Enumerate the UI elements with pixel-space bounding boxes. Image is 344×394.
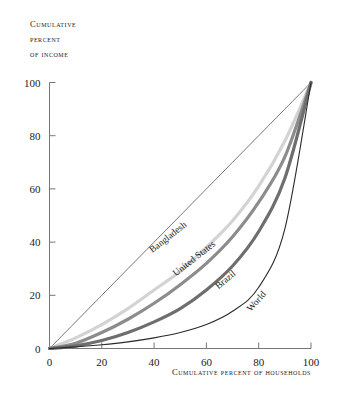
x-tick-label: 60 (201, 356, 213, 368)
x-axis-ticks (102, 343, 311, 349)
x-tick-label: 80 (253, 356, 265, 368)
y-axis-title-line-3: of income (30, 49, 68, 59)
chart-canvas: Cumulative percent of income 02040608010… (0, 0, 344, 394)
y-tick-label: 60 (30, 183, 42, 195)
x-tick-label: 20 (96, 356, 108, 368)
y-axis-title-line-1: Cumulative (30, 19, 76, 29)
y-tick-label: 40 (30, 236, 42, 248)
y-tick-label: 20 (30, 289, 42, 301)
x-tick-label: 0 (47, 356, 53, 368)
curve-label-world: World (245, 289, 268, 313)
lorenz-curves (50, 83, 312, 349)
curve-label-bangladesh: Bangladesh (147, 219, 188, 254)
y-tick-label: 80 (30, 130, 42, 142)
curve-labels: BangladeshUnited StatesBrazilWorld (147, 219, 268, 313)
y-axis-ticks (50, 83, 56, 296)
x-tick-label: 40 (149, 356, 161, 368)
x-axis-title: Cumulative percent of households (172, 367, 311, 377)
lorenz-curve-figure: Cumulative percent of income 02040608010… (0, 0, 344, 394)
x-tick-label: 100 (303, 356, 320, 368)
x-axis-tick-labels: 020406080100 (47, 356, 320, 368)
y-axis-title-block: Cumulative percent of income (30, 19, 76, 59)
y-tick-label: 0 (35, 343, 41, 355)
y-axis-tick-labels: 020406080100 (24, 77, 41, 355)
y-tick-label: 100 (24, 77, 41, 89)
y-axis-title-line-2: percent (30, 34, 61, 44)
